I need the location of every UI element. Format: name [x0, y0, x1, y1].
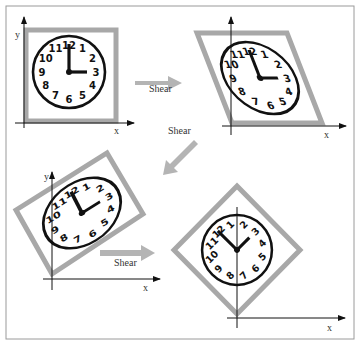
- panel-shear-2: 121234567891011 y x: [16, 153, 160, 293]
- shear-label: Shear: [149, 83, 172, 94]
- shear-arrow-2: Shear: [163, 125, 198, 175]
- shear-arrow-3: Shear: [100, 245, 155, 268]
- clock: 121234567891011: [33, 36, 105, 108]
- arrow-down-left-icon: [163, 140, 198, 175]
- clock-numeral: 8: [42, 80, 49, 91]
- clock-numeral: 10: [39, 53, 53, 64]
- clock-numeral: 4: [89, 80, 96, 91]
- x-axis-label: x: [324, 129, 329, 140]
- y-axis-label: y: [44, 171, 49, 182]
- clock-numeral: 1: [79, 43, 86, 54]
- clock-numeral: 6: [66, 94, 73, 105]
- x-axis-label: x: [114, 125, 119, 136]
- shear-label: Shear: [114, 257, 137, 268]
- clock-numeral: 7: [52, 90, 59, 101]
- panel-rotated: 121234567891011 x: [174, 186, 345, 333]
- panel-original: 121234567891011 y x: [15, 17, 134, 136]
- clock-numeral: 3: [93, 67, 100, 78]
- shear-label: Shear: [168, 125, 191, 136]
- x-axis-label: x: [143, 282, 148, 293]
- y-axis-label: y: [15, 29, 20, 40]
- x-axis-label: x: [327, 322, 332, 333]
- shear-arrow-1: Shear: [135, 76, 182, 94]
- clock-numeral: 5: [79, 90, 86, 101]
- clock-numeral: 9: [39, 67, 46, 78]
- clock-numeral: 2: [89, 53, 96, 64]
- panel-shear-1: 121234567891011 x: [197, 17, 346, 140]
- shear-rotation-diagram: 121234567891011 y x Shear 12123456789101…: [0, 0, 359, 345]
- clock-numeral: 11: [49, 43, 63, 54]
